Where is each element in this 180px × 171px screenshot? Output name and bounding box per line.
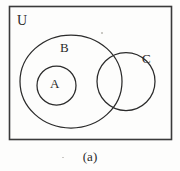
set-c-label: C [142,52,151,65]
figure-caption: (a) [0,149,180,165]
universe-label: U [17,14,27,28]
paper-speck [101,32,103,34]
venn-diagram-figure: U B A C (a) [0,0,180,171]
set-a-label: A [50,77,59,90]
set-b-label: B [60,41,69,54]
universe-rectangle [10,7,172,140]
set-b-ellipse [20,35,122,128]
